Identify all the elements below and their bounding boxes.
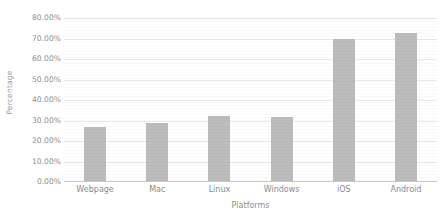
y-axis-title-label: Percentage [5,70,14,114]
y-axis-tick-label: 70.00% [32,35,61,43]
bar [208,116,230,182]
bar [84,127,106,182]
plot-area [64,18,437,182]
y-axis-tick-label: 30.00% [32,117,61,125]
x-axis-tick-label: Linux [209,185,231,195]
y-axis-tick-label: 0.00% [37,178,61,186]
x-axis-tick-label: Windows [264,185,300,195]
y-axis-tick-labels: 0.00%10.00%20.00%30.00%40.00%50.00%60.00… [18,0,64,185]
bar-series [64,18,437,182]
y-axis-tick-label: 60.00% [32,55,61,63]
bar [333,39,355,183]
x-axis-line [64,181,437,182]
x-axis-tick-label: Mac [149,185,165,195]
bar-chart: Percentage 0.00%10.00%20.00%30.00%40.00%… [0,0,448,221]
bar [271,117,293,182]
y-axis-title: Percentage [0,0,18,185]
bar [146,123,168,182]
y-axis-tick-label: 10.00% [32,158,61,166]
bar [395,33,417,182]
x-axis-tick-label: Android [390,185,421,195]
x-axis-tick-label: Webpage [76,185,113,195]
x-axis-tick-labels: WebpageMacLinuxWindowsiOSAndroid [64,185,437,199]
x-axis-title: Platforms [64,201,437,210]
y-axis-tick-label: 80.00% [32,14,61,22]
y-axis-tick-label: 20.00% [32,137,61,145]
x-axis-tick-label: iOS [337,185,351,195]
y-axis-tick-label: 40.00% [32,96,61,104]
y-axis-tick-label: 50.00% [32,76,61,84]
